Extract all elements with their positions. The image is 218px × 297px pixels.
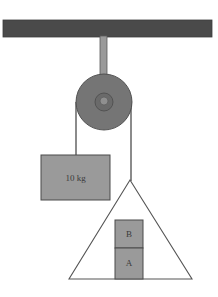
ceiling-beam <box>3 20 212 37</box>
pulley-diagram: 10 kg B A <box>0 0 218 297</box>
block-b-label: B <box>126 229 132 239</box>
pulley-axle-icon <box>100 97 108 105</box>
hanging-mass-label: 10 kg <box>65 173 86 183</box>
diagram-canvas: 10 kg B A <box>0 0 218 297</box>
block-a-label: A <box>126 258 133 268</box>
